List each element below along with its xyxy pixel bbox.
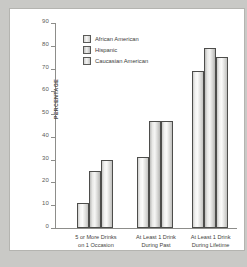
x-axis-category-line: 30 Days (136, 249, 176, 251)
legend-swatch-icon (83, 35, 91, 43)
x-axis-category-line: During Past (136, 241, 176, 249)
bar-hispanic (204, 48, 216, 228)
y-tick-label: 60 (42, 86, 49, 92)
y-tick-mark (51, 23, 56, 24)
legend-swatch-icon (83, 57, 91, 65)
y-tick-mark (51, 114, 56, 115)
bar-hispanic (89, 171, 101, 228)
x-axis-category-line: At Least 1 Drink (136, 233, 176, 241)
x-axis-category-label: 5 or More Drinkson 1 OccasionDuring Past… (70, 233, 121, 251)
bar-group-bars (192, 23, 228, 228)
chart-panel: PERCENTAGE 0102030405060708090 5 or More… (9, 8, 245, 251)
y-tick-label: 10 (42, 200, 49, 206)
legend-item: Caucasian American (83, 56, 148, 66)
legend-swatch-icon (83, 46, 91, 54)
y-tick-label: 30 (42, 155, 49, 161)
x-axis-category-label: At Least 1 DrinkDuring Past30 Days (136, 233, 176, 251)
y-tick-label: 0 (45, 223, 49, 229)
x-axis-category-line: During Lifetime (191, 241, 231, 249)
y-tick-label: 20 (42, 177, 49, 183)
y-tick-mark (51, 205, 56, 206)
y-tick-mark (51, 46, 56, 47)
x-axis-line (55, 228, 237, 229)
bar-caucasian-american (216, 57, 228, 228)
y-axis-line (55, 23, 56, 228)
legend-label: African American (95, 36, 139, 42)
legend-item: Hispanic (83, 45, 148, 55)
x-axis-category-label: At Least 1 DrinkDuring Lifetime (191, 233, 231, 249)
bar-african-american (77, 203, 89, 228)
y-tick-label: 70 (42, 64, 49, 70)
y-tick-label: 40 (42, 132, 49, 138)
y-tick-label: 90 (42, 18, 49, 24)
x-axis-category-line: on 1 Occasion (70, 241, 121, 249)
bar-caucasian-american (101, 160, 113, 228)
y-tick-mark (51, 228, 56, 229)
bar-african-american (192, 71, 204, 228)
bar-hispanic (149, 121, 161, 228)
legend-item: African American (83, 34, 148, 44)
bar-african-american (137, 157, 149, 228)
y-tick-label: 50 (42, 109, 49, 115)
y-tick-mark (51, 182, 56, 183)
bar-caucasian-american (161, 121, 173, 228)
x-axis-category-line: 5 or More Drinks (70, 233, 121, 241)
legend-label: Hispanic (95, 47, 117, 53)
y-tick-mark (51, 137, 56, 138)
y-tick-label: 80 (42, 41, 49, 47)
x-axis-category-line: During Past 30 Days (70, 249, 121, 251)
x-axis-category-line: At Least 1 Drink (191, 233, 231, 241)
y-tick-mark (51, 91, 56, 92)
y-tick-mark (51, 69, 56, 70)
y-axis-title: PERCENTAGE (53, 79, 59, 119)
y-tick-mark (51, 160, 56, 161)
figure-page: PERCENTAGE 0102030405060708090 5 or More… (0, 0, 247, 267)
legend-label: Caucasian American (95, 58, 148, 64)
bar-group: At Least 1 DrinkDuring Lifetime (192, 23, 230, 228)
chart-legend: African AmericanHispanicCaucasian Americ… (83, 34, 148, 66)
